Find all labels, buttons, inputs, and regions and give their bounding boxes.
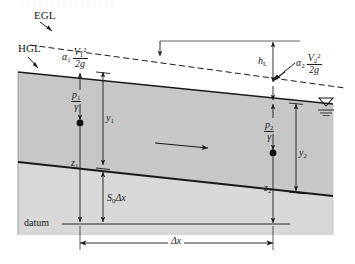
bed-drop-label: S0Δx: [107, 193, 126, 204]
pressure-head-1-label: p1 γ: [71, 90, 81, 112]
reach-length-label: Δx: [168, 236, 184, 246]
velocity-head-1-fraction: V12 2g: [73, 46, 88, 69]
hgl-label: HGL: [18, 43, 41, 54]
alpha-2-symbol: α2: [296, 58, 305, 69]
velocity-head-2-label: α2 V22 2g: [296, 52, 322, 75]
centroid-marker-1: [77, 120, 84, 127]
elevation-1-label: z1: [71, 158, 78, 169]
alpha-1-symbol: α1: [62, 52, 71, 63]
velocity-head-2-leader: [273, 63, 295, 81]
pressure-head-1-fraction: p1 γ: [71, 90, 81, 112]
pressure-head-2-label: p2 γ: [264, 120, 274, 142]
elevation-2-label: z2: [264, 183, 271, 194]
datum-label: datum: [24, 218, 49, 228]
depth-1-label: y1: [106, 113, 114, 124]
centroid-marker-2: [270, 150, 277, 157]
hgl-leader: [28, 57, 38, 68]
figure-canvas: [0, 0, 355, 264]
open-channel-flow-figure: EGL HGL α1 V12 2g α2 V22 2g hL p1 γ: [0, 0, 355, 264]
velocity-head-2-fraction: V22 2g: [307, 52, 322, 75]
head-loss-label: hL: [258, 56, 267, 67]
pressure-head-2-fraction: p2 γ: [264, 120, 274, 142]
depth-2-label: y2: [299, 148, 307, 159]
velocity-head-1-label: α1 V12 2g: [62, 46, 88, 69]
egl-leader: [40, 22, 52, 31]
egl-label: EGL: [34, 10, 55, 21]
